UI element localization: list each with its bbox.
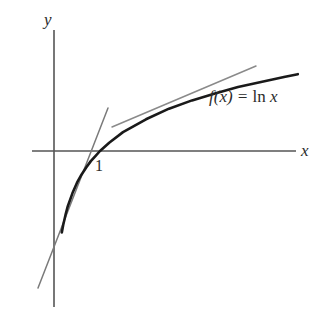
function-label-arg: x bbox=[266, 87, 278, 106]
function-label-fx: f(x) = bbox=[209, 87, 253, 106]
ln-curve-lower-helper bbox=[62, 156, 296, 306]
function-label: f(x) = ln x bbox=[209, 88, 278, 105]
x-axis-label: x bbox=[301, 142, 309, 159]
function-label-ln: ln bbox=[253, 87, 266, 106]
tangent-line-at-one bbox=[38, 108, 108, 288]
diagram-canvas bbox=[0, 0, 327, 316]
y-axis-label: y bbox=[44, 11, 52, 28]
log-function-diagram: y x 1 f(x) = ln x bbox=[0, 0, 327, 316]
x-intercept-tick-label: 1 bbox=[95, 158, 103, 174]
